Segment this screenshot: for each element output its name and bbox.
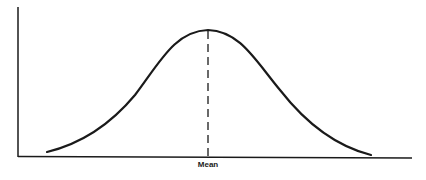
bell-curve-diagram (0, 0, 426, 180)
x-axis (18, 157, 412, 159)
mean-label: Mean (188, 160, 228, 169)
normal-curve (47, 30, 371, 155)
